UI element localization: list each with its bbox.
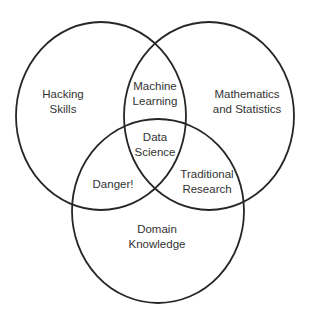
label-line: Domain [129, 222, 186, 237]
label-line: Hacking [42, 87, 84, 102]
data-science-label: Data Science [135, 130, 176, 160]
label-line: Skills [42, 102, 84, 117]
label-line: Research [180, 182, 233, 197]
label-line: Danger! [93, 177, 134, 192]
label-line: Machine [133, 79, 178, 94]
label-line: Traditional [180, 167, 233, 182]
hacking-skills-label: Hacking Skills [42, 87, 84, 117]
danger-label: Danger! [93, 177, 134, 192]
traditional-research-label: Traditional Research [180, 167, 233, 197]
label-line: Learning [133, 94, 178, 109]
machine-learning-label: Machine Learning [133, 79, 178, 109]
label-line: Data [135, 130, 176, 145]
venn-diagram: Hacking Skills Mathematics and Statistic… [0, 0, 309, 316]
label-line: Knowledge [129, 237, 186, 252]
label-line: Mathematics [213, 87, 281, 102]
label-line: Science [135, 145, 176, 160]
math-statistics-label: Mathematics and Statistics [213, 87, 281, 117]
label-line: and Statistics [213, 102, 281, 117]
domain-knowledge-label: Domain Knowledge [129, 222, 186, 252]
